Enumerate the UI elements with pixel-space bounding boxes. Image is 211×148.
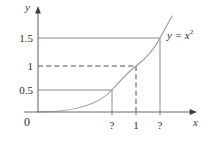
x-tick-label-1: 1	[128, 120, 144, 131]
x-axis-label: x	[193, 117, 198, 128]
curve-equation-exponent: 2	[190, 28, 194, 36]
parabola-curve	[38, 16, 172, 112]
y-tick-label-0point5: 0.5	[6, 85, 33, 96]
y-axis-label: y	[25, 2, 30, 13]
graph-figure: y x 0 1.5 1 0.5 ? 1 ? y = x2	[0, 0, 211, 148]
x-axis-arrowhead	[190, 109, 197, 115]
y-tick-label-1: 1	[6, 61, 33, 72]
x-tick-label-second-unknown: ?	[152, 120, 168, 131]
curve-equation-text: y = x	[167, 29, 190, 41]
origin-label: 0	[24, 116, 30, 128]
y-axis-arrowhead	[35, 6, 41, 13]
x-tick-label-first-unknown: ?	[104, 120, 120, 131]
curve-equation-label: y = x2	[167, 30, 193, 41]
y-tick-label-1point5: 1.5	[6, 33, 33, 44]
